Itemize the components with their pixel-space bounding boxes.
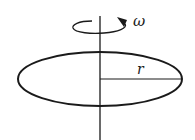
diagram-drawing [0,0,195,140]
radius-label: r [137,62,144,76]
omega-label: ω [133,14,145,29]
rotation-arrow [73,21,126,33]
rotating-disk-diagram: ω r [0,0,195,140]
